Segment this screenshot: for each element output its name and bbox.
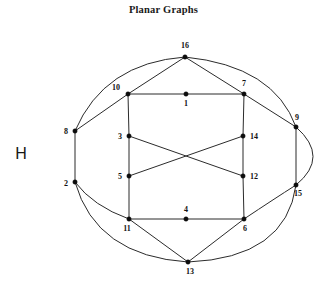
graph-node-12[interactable] bbox=[241, 174, 245, 178]
graph-node-label-16: 16 bbox=[181, 41, 189, 50]
graph-node-label-8: 8 bbox=[64, 127, 68, 136]
graph-node-8[interactable] bbox=[73, 129, 77, 133]
graph-edge-11-13 bbox=[129, 219, 188, 262]
graph-node-label-3: 3 bbox=[118, 132, 122, 141]
graph-node-11[interactable] bbox=[127, 217, 131, 221]
graph-node-label-4: 4 bbox=[184, 205, 188, 214]
graph-node-label-14: 14 bbox=[250, 132, 258, 141]
graph-edge-curved-13-15 bbox=[188, 185, 296, 262]
graph-edge-13-6 bbox=[188, 219, 244, 262]
graph-node-15[interactable] bbox=[294, 183, 298, 187]
graph-node-label-11: 11 bbox=[123, 224, 131, 233]
graph-node-16[interactable] bbox=[183, 55, 187, 59]
graph-node-1[interactable] bbox=[184, 92, 188, 96]
graph-node-6[interactable] bbox=[242, 217, 246, 221]
graph-node-2[interactable] bbox=[73, 180, 77, 184]
graph-node-7[interactable] bbox=[242, 92, 246, 96]
straight-edge-group bbox=[75, 57, 296, 262]
graph-node-10[interactable] bbox=[126, 92, 130, 96]
graph-node-label-7: 7 bbox=[242, 79, 246, 88]
planar-graph-figure: Planar Graphs H 16101798314512215114613 bbox=[0, 0, 327, 289]
node-label-group: 16101798314512215114613 bbox=[64, 41, 302, 276]
graph-node-13[interactable] bbox=[186, 260, 190, 264]
graph-canvas: 16101798314512215114613 bbox=[0, 0, 327, 289]
graph-node-5[interactable] bbox=[127, 174, 131, 178]
graph-edge-12-6 bbox=[243, 176, 244, 219]
graph-edge-8-10 bbox=[75, 94, 128, 131]
graph-node-9[interactable] bbox=[294, 125, 298, 129]
graph-edge-10-3 bbox=[128, 94, 129, 136]
graph-node-4[interactable] bbox=[184, 217, 188, 221]
graph-node-label-6: 6 bbox=[243, 224, 247, 233]
graph-node-label-10: 10 bbox=[112, 83, 120, 92]
graph-edge-curved-9-15 bbox=[296, 127, 313, 185]
graph-edge-curved-15-6 bbox=[244, 185, 296, 219]
graph-node-label-9: 9 bbox=[295, 113, 299, 122]
graph-node-label-1: 1 bbox=[184, 99, 188, 108]
graph-node-14[interactable] bbox=[241, 134, 245, 138]
curved-edge-group bbox=[75, 57, 313, 262]
graph-node-label-2: 2 bbox=[64, 179, 68, 188]
graph-edge-curved-2-11 bbox=[75, 182, 129, 219]
graph-node-label-15: 15 bbox=[294, 189, 302, 198]
graph-edge-7-14 bbox=[243, 94, 244, 136]
graph-node-3[interactable] bbox=[127, 134, 131, 138]
graph-edge-16-10 bbox=[128, 57, 185, 94]
graph-edge-16-7 bbox=[185, 57, 244, 94]
graph-node-label-13: 13 bbox=[186, 267, 194, 276]
graph-node-label-5: 5 bbox=[118, 172, 122, 181]
graph-node-label-12: 12 bbox=[250, 172, 258, 181]
